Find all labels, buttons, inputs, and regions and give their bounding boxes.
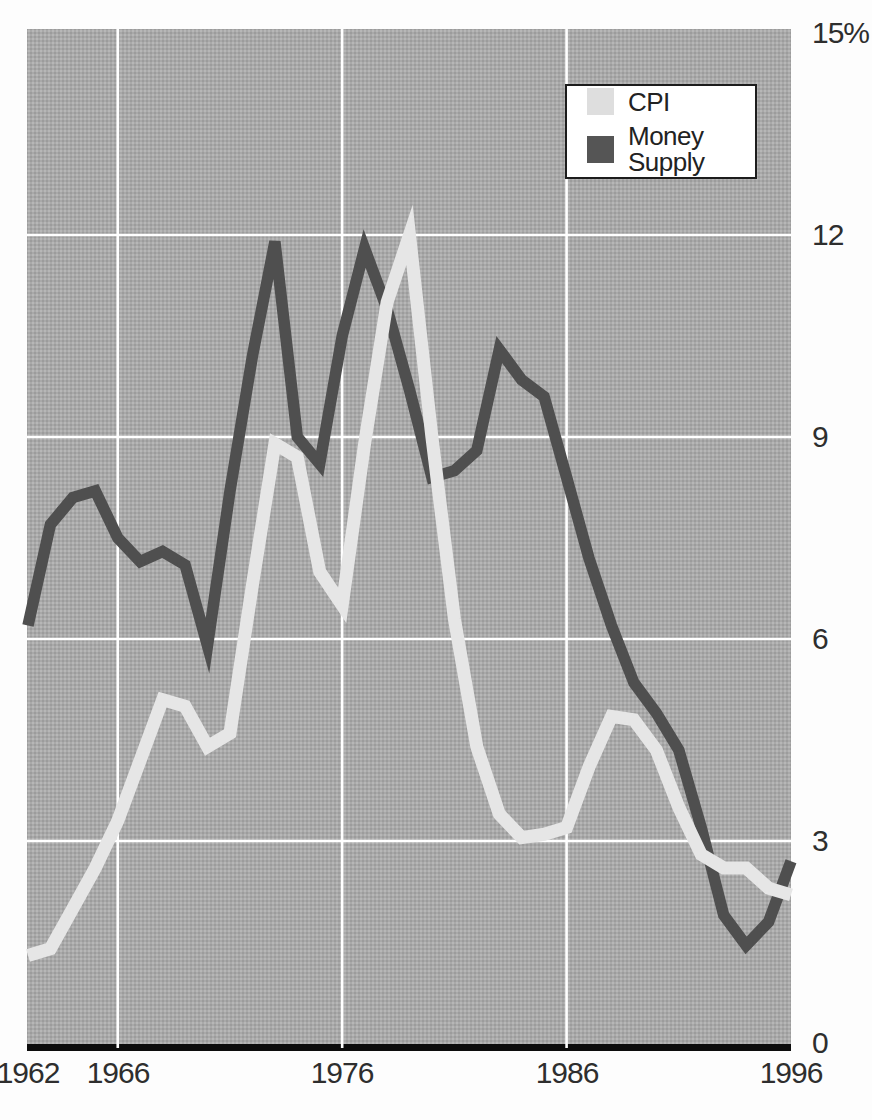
- x-tick-label: 1966: [87, 1058, 150, 1088]
- legend-label-money-supply: Money Supply: [628, 123, 755, 175]
- legend-item-money-supply: Money Supply: [587, 123, 755, 175]
- y-tick-label: 9: [812, 422, 828, 452]
- x-tick-label: 1976: [311, 1058, 374, 1088]
- cpi-line: [28, 235, 791, 956]
- cpi-swatch-icon: [587, 88, 614, 115]
- x-tick-label: 1996: [760, 1058, 823, 1088]
- y-tick-label: 12: [812, 220, 843, 250]
- legend-label-cpi: CPI: [628, 89, 670, 115]
- y-tick-label: 0: [812, 1028, 828, 1058]
- legend: CPI Money Supply: [565, 84, 757, 179]
- money-supply-swatch-icon: [587, 136, 614, 163]
- x-tick-label: 1962: [0, 1058, 59, 1088]
- x-axis-baseline: [27, 1044, 791, 1051]
- legend-item-cpi: CPI: [587, 88, 755, 115]
- x-tick-label: 1986: [536, 1058, 599, 1088]
- inflation-money-supply-figure: 03691215% 19621966197619861996 CPI Money…: [0, 0, 872, 1120]
- y-tick-label: 6: [812, 624, 828, 654]
- chart-svg: [27, 29, 791, 1053]
- y-tick-label: 3: [812, 826, 828, 856]
- y-tick-label: 15%: [812, 18, 869, 48]
